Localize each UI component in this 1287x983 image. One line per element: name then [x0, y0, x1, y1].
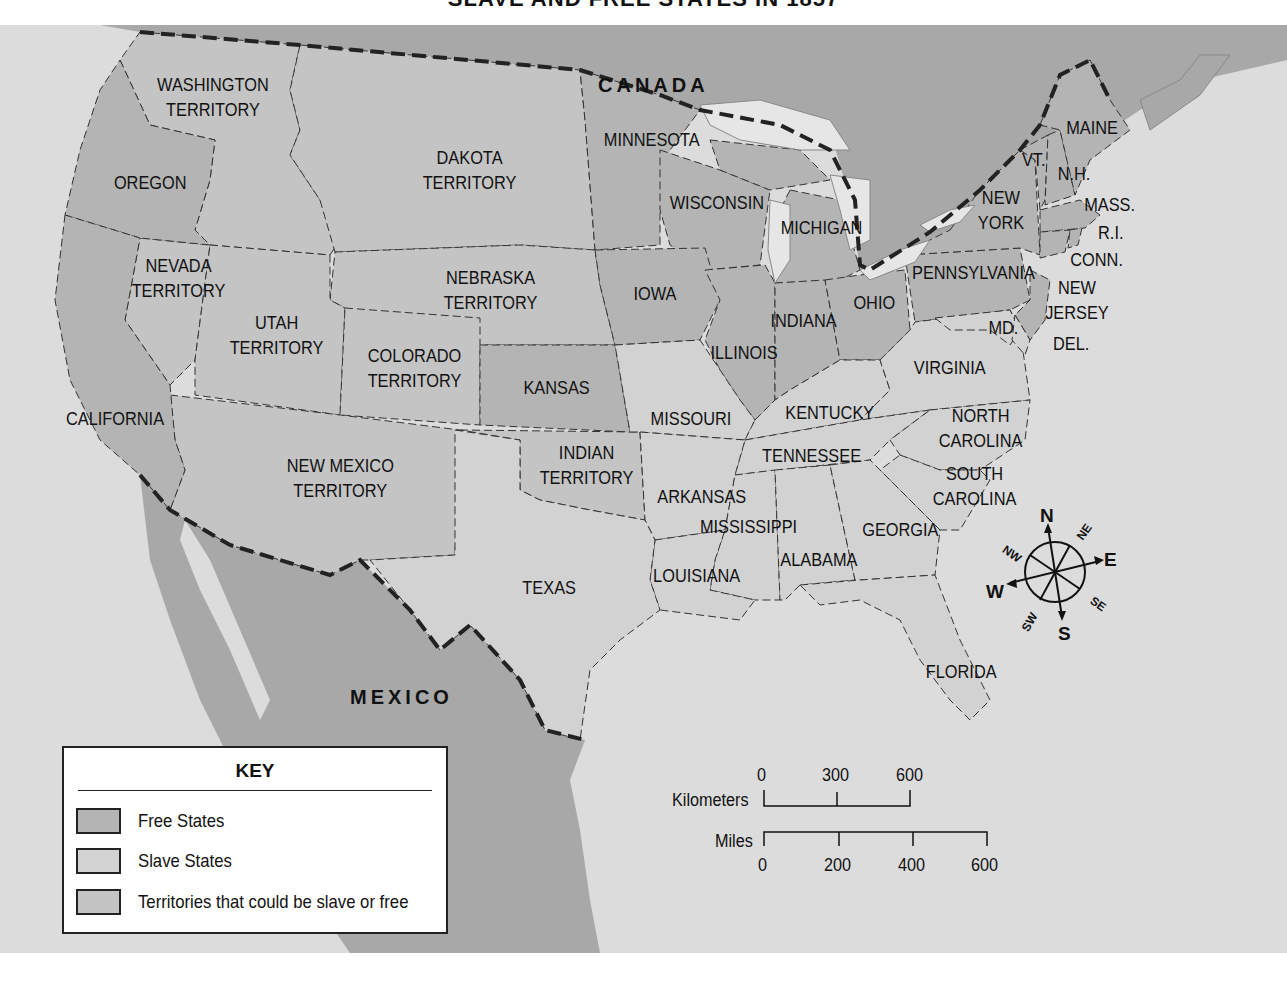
compass-w: W — [986, 581, 1004, 603]
label-ohio: OHIO — [853, 290, 895, 315]
region-connecticut — [1040, 230, 1070, 258]
label-minnesota: MINNESOTA — [604, 127, 700, 152]
label-nebraska-territory: NEBRASKATERRITORY — [444, 265, 538, 315]
label-virginia: VIRGINIA — [914, 355, 986, 380]
key-label: Free States — [138, 810, 224, 832]
label-texas: TEXAS — [522, 575, 576, 600]
label-new-mexico-territory: NEW MEXICOTERRITORY — [287, 453, 394, 503]
label-florida: FLORIDA — [926, 659, 997, 684]
slave-states-swatch — [76, 848, 121, 874]
label-wisconsin: WISCONSIN — [670, 190, 764, 215]
label-oregon: OREGON — [114, 170, 187, 195]
compass-n: N — [1040, 505, 1054, 527]
key-label: Slave States — [138, 850, 232, 872]
label-rhode-island: R.I. — [1098, 220, 1123, 245]
label-kansas: KANSAS — [523, 375, 589, 400]
label-michigan: MICHIGAN — [781, 215, 863, 240]
label-louisiana: LOUISIANA — [653, 563, 740, 588]
label-iowa: IOWA — [633, 281, 676, 306]
label-washington-territory: WASHINGTONTERRITORY — [157, 72, 269, 122]
label-georgia: GEORGIA — [862, 517, 938, 542]
key-title: KEY — [64, 760, 446, 782]
map-title: SLAVE AND FREE STATES IN 1857 — [0, 0, 1287, 12]
label-new-hampshire: N.H. — [1058, 161, 1091, 186]
label-north-carolina: NORTHCAROLINA — [939, 403, 1023, 453]
label-vermont: VT. — [1022, 147, 1046, 172]
label-kentucky: KENTUCKY — [785, 400, 874, 425]
label-illinois: ILLINOIS — [710, 340, 777, 365]
scale-bar: 0 300 600 Kilometers Miles 0 200 400 600 — [660, 760, 1020, 890]
label-massachusetts: MASS. — [1084, 192, 1135, 217]
label-connecticut: CONN. — [1070, 247, 1123, 272]
label-colorado-territory: COLORADOTERRITORY — [368, 343, 462, 393]
label-california: CALIFORNIA — [66, 406, 164, 431]
region-florida — [800, 575, 990, 720]
label-new-jersey: NEWJERSEY — [1045, 275, 1109, 325]
scale-mi-400: 400 — [898, 855, 925, 876]
map-key: KEY Free States Slave States Territories… — [62, 746, 448, 934]
label-delaware: DEL. — [1053, 331, 1089, 356]
key-divider — [78, 790, 432, 791]
label-new-york: NEWYORK — [978, 185, 1024, 235]
free-states-swatch — [76, 808, 121, 834]
scale-mi-600: 600 — [971, 855, 998, 876]
compass-rose: N NE E SE S SW W NW — [990, 505, 1130, 645]
label-maryland: MD. — [988, 315, 1018, 340]
label-arkansas: ARKANSAS — [657, 484, 746, 509]
region-rhode-island — [1068, 228, 1082, 248]
label-pennsylvania: PENNSYLVANIA — [912, 260, 1035, 285]
scale-mi-200: 200 — [824, 855, 851, 876]
label-mississippi: MISSISSIPPI — [700, 514, 797, 539]
label-canada: CANADA — [598, 73, 709, 98]
label-dakota-territory: DAKOTATERRITORY — [423, 145, 517, 195]
label-indiana: INDIANA — [770, 308, 836, 333]
key-label: Territories that could be slave or free — [138, 891, 408, 913]
scale-mi-label: Miles — [715, 831, 753, 852]
compass-e: E — [1104, 549, 1117, 571]
label-alabama: ALABAMA — [780, 547, 857, 572]
scale-mi-0: 0 — [758, 855, 767, 876]
label-missouri: MISSOURI — [651, 406, 732, 431]
label-utah-territory: UTAHTERRITORY — [230, 310, 324, 360]
label-maine: MAINE — [1066, 115, 1118, 140]
label-tennessee: TENNESSEE — [762, 443, 861, 468]
compass-s: S — [1058, 623, 1071, 645]
label-nevada-territory: NEVADATERRITORY — [132, 253, 226, 303]
label-mexico: MEXICO — [350, 685, 453, 710]
territories-swatch — [76, 889, 121, 915]
label-south-carolina: SOUTHCAROLINA — [933, 461, 1017, 511]
label-indian-territory: INDIANTERRITORY — [540, 440, 634, 490]
